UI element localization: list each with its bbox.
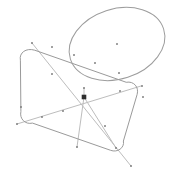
vertex-marker[interactable]: [116, 43, 118, 45]
vertex-marker[interactable]: [20, 106, 22, 108]
origin-marker[interactable]: [82, 95, 87, 100]
sketch-canvas[interactable]: [0, 0, 175, 173]
vertex-marker[interactable]: [130, 165, 132, 167]
vertex-marker[interactable]: [51, 73, 53, 75]
vertex-marker[interactable]: [118, 72, 120, 74]
vertex-marker[interactable]: [83, 87, 85, 89]
vertex-marker[interactable]: [73, 54, 75, 56]
vertex-marker[interactable]: [119, 90, 121, 92]
vertex-marker[interactable]: [76, 146, 78, 148]
vertex-marker[interactable]: [41, 116, 43, 118]
vertex-marker[interactable]: [141, 85, 143, 87]
vertex-marker[interactable]: [62, 110, 64, 112]
diagonal-cross-line[interactable]: [17, 86, 141, 124]
vertex-marker[interactable]: [16, 123, 18, 125]
origin-marker-group[interactable]: [82, 95, 87, 100]
vertex-marker[interactable]: [51, 46, 53, 48]
vertex-marker[interactable]: [142, 96, 144, 98]
vertex-marker[interactable]: [115, 147, 117, 149]
vertex-marker[interactable]: [104, 125, 106, 127]
sketch-svg[interactable]: [0, 0, 175, 173]
vertex-marker[interactable]: [31, 42, 33, 44]
vertex-marker[interactable]: [94, 62, 96, 64]
center-to-bottom-right-line[interactable]: [84, 97, 116, 148]
